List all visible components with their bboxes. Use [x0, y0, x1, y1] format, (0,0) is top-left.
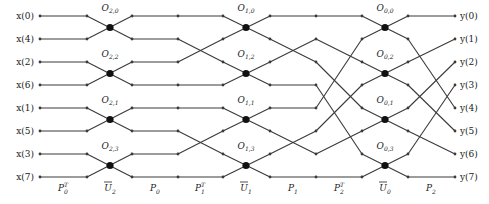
- perm-P2T-wire: [316, 85, 362, 154]
- output-label: y(5): [459, 126, 478, 136]
- wire-node: [131, 15, 134, 18]
- operator-label: O0,2: [377, 49, 394, 60]
- wire-node: [131, 107, 134, 110]
- wire-node: [222, 61, 225, 64]
- input-label: x(6): [16, 80, 34, 90]
- wire-node: [86, 38, 89, 41]
- butterfly-node: [242, 116, 249, 123]
- output-labels: y(0)y(1)y(2)y(3)y(4)y(5)y(6)y(7): [459, 11, 478, 182]
- wire-node: [407, 153, 410, 156]
- output-label: y(6): [459, 149, 478, 159]
- wire-node: [407, 107, 410, 110]
- wire-node: [454, 61, 457, 64]
- operator-label: O2,1: [102, 95, 119, 106]
- wire-node: [269, 176, 272, 179]
- wire-node: [269, 130, 272, 133]
- wire-node: [361, 38, 364, 41]
- wire-node: [39, 84, 42, 87]
- wire-node: [131, 176, 134, 179]
- wire-node: [315, 176, 318, 179]
- perm-P2T-wire: [316, 39, 362, 108]
- wire-node: [407, 84, 410, 87]
- operator-label: O1,2: [238, 49, 255, 60]
- stage-label: U0: [379, 183, 391, 195]
- butterfly-node: [106, 162, 113, 169]
- wire-node: [131, 38, 134, 41]
- butterfly-diagram: O2,0O2,2O2,1O2,3O1,0O1,2O1,1O1,3O0,0O0,2…: [0, 0, 489, 204]
- perm-P2T-wire: [316, 85, 362, 131]
- wire-node: [86, 176, 89, 179]
- wire-node: [454, 107, 457, 110]
- operator-label: O1,3: [238, 141, 255, 152]
- wire-node: [361, 107, 364, 110]
- input-labels: x(0)x(4)x(2)x(6)x(1)x(5)x(3)x(7): [16, 11, 34, 182]
- output-label: y(0): [459, 11, 478, 21]
- output-label: y(2): [459, 57, 478, 67]
- output-label: y(1): [459, 34, 478, 44]
- wire-node: [454, 130, 457, 133]
- wire-node: [361, 84, 364, 87]
- wire-node: [407, 15, 410, 18]
- wire-node: [407, 38, 410, 41]
- stage-label: P1: [287, 183, 298, 195]
- operator-label: O2,2: [102, 49, 119, 60]
- wire-node: [86, 107, 89, 110]
- perm-P2T-wire: [316, 131, 362, 154]
- wire-node: [361, 15, 364, 18]
- butterfly-node: [242, 24, 249, 31]
- operator-label: O2,3: [102, 141, 119, 152]
- wire-node: [39, 15, 42, 18]
- input-label: x(2): [16, 57, 34, 67]
- wire-node: [454, 153, 457, 156]
- butterfly-node: [242, 162, 249, 169]
- wire-node: [269, 84, 272, 87]
- operator-label: O1,0: [238, 3, 255, 14]
- perm-P2-wire: [408, 131, 455, 154]
- input-label: x(1): [16, 103, 34, 113]
- wire-node: [86, 61, 89, 64]
- stage-label: U1: [240, 183, 251, 195]
- wire-node: [177, 107, 180, 110]
- wire-node: [315, 38, 318, 41]
- wire-node: [177, 130, 180, 133]
- butterfly-node: [381, 162, 388, 169]
- wire-node: [131, 153, 134, 156]
- wire-node: [86, 15, 89, 18]
- wire-node: [361, 176, 364, 179]
- perm-P2-wire: [408, 62, 455, 108]
- wire-node: [222, 130, 225, 133]
- butterfly-node: [106, 70, 113, 77]
- stage-label: PT1: [194, 181, 206, 195]
- wire-node: [222, 38, 225, 41]
- wire-node: [86, 84, 89, 87]
- perm-P2T-wire: [316, 62, 362, 108]
- output-label: y(3): [459, 80, 478, 90]
- wire-node: [39, 176, 42, 179]
- wire-node: [269, 153, 272, 156]
- stage-label: PT2: [333, 181, 345, 195]
- input-label: x(3): [16, 149, 34, 159]
- butterfly-node: [242, 70, 249, 77]
- operator-label: O0,1: [377, 95, 394, 106]
- wire-node: [222, 107, 225, 110]
- input-label: x(7): [16, 172, 34, 182]
- wire-node: [177, 15, 180, 18]
- output-label: y(7): [459, 172, 478, 182]
- wire-node: [39, 107, 42, 110]
- butterfly-node: [381, 116, 388, 123]
- perm-P2-wire: [408, 39, 455, 62]
- operator-label: O2,0: [102, 3, 119, 14]
- perm-P2-wire: [408, 85, 455, 131]
- operator-label: O1,1: [238, 95, 255, 106]
- wire-node: [177, 61, 180, 64]
- wire-node: [177, 176, 180, 179]
- wire-node: [454, 38, 457, 41]
- wire-node: [407, 176, 410, 179]
- stage-label: P0: [149, 183, 160, 195]
- wire-node: [454, 84, 457, 87]
- wire-node: [39, 153, 42, 156]
- wire-node: [39, 61, 42, 64]
- stage-label: PT0: [57, 181, 69, 195]
- wire-node: [177, 38, 180, 41]
- stage-label: U2: [104, 183, 116, 195]
